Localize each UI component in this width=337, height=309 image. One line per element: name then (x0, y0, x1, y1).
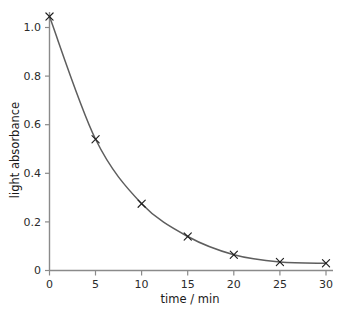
y-tick-label-1-0: 1.0 (24, 21, 42, 34)
data-point-marker (92, 136, 99, 143)
x-tick-label-30: 30 (319, 278, 333, 291)
x-tick-label-20: 20 (227, 278, 241, 291)
chart-container: 0 0.2 0.4 0.6 0.8 1.0 0 5 10 15 20 25 30… (0, 0, 337, 309)
x-axis-ticks (50, 271, 327, 276)
x-tick-label-10: 10 (135, 278, 149, 291)
data-markers (46, 13, 330, 267)
x-tick-label-0: 0 (46, 278, 53, 291)
x-tick-label-15: 15 (181, 278, 195, 291)
y-tick-label-0: 0 (34, 264, 41, 277)
data-point-marker (138, 200, 145, 207)
data-point-marker (184, 233, 191, 240)
x-tick-label-5: 5 (92, 278, 99, 291)
y-axis-title: light absorbance (8, 102, 22, 198)
y-tick-label-0-8: 0.8 (24, 70, 42, 83)
data-curve (50, 17, 327, 264)
x-axis-title: time / min (161, 292, 220, 306)
y-tick-label-0-2: 0.2 (24, 216, 42, 229)
y-tick-label-0-4: 0.4 (24, 167, 42, 180)
y-tick-label-0-6: 0.6 (24, 118, 42, 131)
absorbance-decay-chart: 0 0.2 0.4 0.6 0.8 1.0 0 5 10 15 20 25 30… (0, 0, 337, 309)
x-tick-label-25: 25 (273, 278, 287, 291)
